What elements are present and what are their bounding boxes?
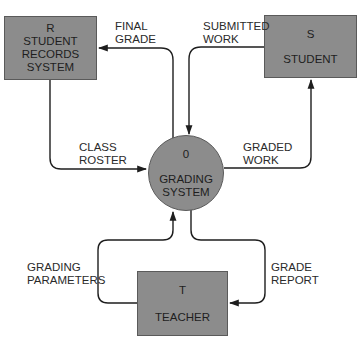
flow-label-final-grade: FINAL GRADE: [115, 20, 156, 46]
entity-id: R: [46, 22, 54, 35]
flow-label-class-roster: CLASS ROSTER: [79, 141, 127, 167]
flow-label-graded-work: GRADED WORK: [243, 141, 292, 167]
entity-label-line: RECORDS: [22, 48, 80, 61]
flow-label-submitted-work: SUBMITTED WORK: [203, 20, 269, 46]
external-entity-student-records-system: R STUDENT RECORDS SYSTEM: [4, 16, 97, 80]
entity-label: STUDENT: [283, 53, 337, 66]
external-entity-student: S STUDENT: [264, 15, 357, 78]
flow-label-grading-parameters: GRADING PARAMETERS: [27, 261, 105, 287]
process-label-line: SYSTEM: [162, 186, 209, 199]
external-entity-teacher: T TEACHER: [137, 271, 228, 336]
entity-id: T: [179, 284, 186, 297]
entity-id: S: [307, 28, 315, 41]
entity-label: TEACHER: [155, 311, 210, 324]
flow-submitted-work: [189, 47, 264, 134]
entity-label-line: STUDENT: [23, 35, 77, 48]
flow-final-grade: [99, 48, 173, 138]
flow-label-grade-report: GRADE REPORT: [271, 261, 319, 287]
process-label-line: GRADING: [159, 173, 213, 186]
entity-label-line: SYSTEM: [27, 61, 74, 74]
process-grading-system: 0 GRADING SYSTEM: [148, 135, 224, 211]
process-id: 0: [183, 148, 189, 161]
